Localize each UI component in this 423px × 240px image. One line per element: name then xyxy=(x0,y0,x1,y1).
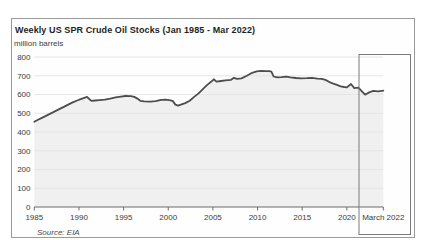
area-fill xyxy=(34,71,383,207)
x-tick-label: 1985 xyxy=(25,213,43,222)
y-tick-label: 400 xyxy=(17,128,31,137)
x-tick-label: 1995 xyxy=(115,213,133,222)
y-tick-label: 800 xyxy=(17,53,31,62)
y-tick-label: 700 xyxy=(17,72,31,81)
x-tick-label: 1990 xyxy=(70,213,88,222)
y-tick-label: 600 xyxy=(17,90,31,99)
x-tick-label: 2010 xyxy=(249,213,267,222)
y-tick-label: 100 xyxy=(17,184,31,193)
y-tick-label: 0 xyxy=(26,203,31,212)
y-tick-label: 200 xyxy=(17,165,31,174)
x-tick-label: 2015 xyxy=(293,213,311,222)
x-tick-label: 2020 xyxy=(338,213,356,222)
x-tick-label: March 2022 xyxy=(362,213,405,222)
x-tick-label: 2000 xyxy=(159,213,177,222)
y-tick-label: 300 xyxy=(17,147,31,156)
chart-plot: 0100200300400500600700800198519901995200… xyxy=(0,0,423,240)
x-tick-label: 2005 xyxy=(204,213,222,222)
y-tick-label: 500 xyxy=(17,109,31,118)
